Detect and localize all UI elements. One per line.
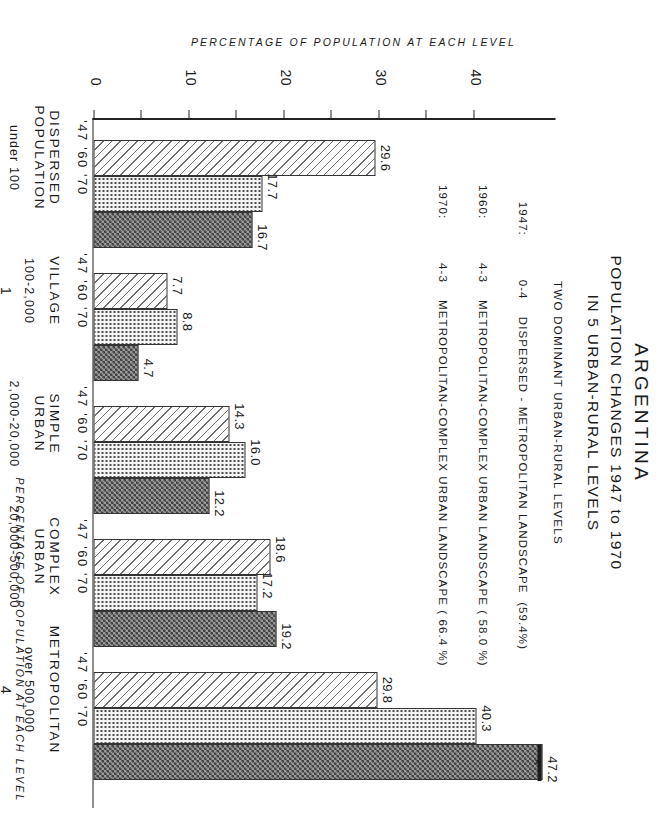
bar-simple-urban-1947[interactable]: 14.3 [94, 406, 230, 442]
bar-simple-urban-1960[interactable]: 16.0 [94, 442, 246, 478]
bar-dispersed-1960[interactable]: 17.7 [94, 176, 262, 212]
y-tick-minor-15 [235, 110, 236, 119]
y-tick-0 [93, 110, 94, 119]
x-label-dispersed: '47 '60 '70 DISPERSED POPULATION under 1… [0, 83, 89, 233]
x-label-years: '47 '60 '70 [74, 349, 89, 499]
asterisk-icon: * [525, 759, 542, 766]
bar-village-1947[interactable]: 7.7 [94, 273, 167, 309]
chart-canvas: ARGENTINA POPULATION CHANGES 1947 to 197… [0, 0, 659, 826]
x-label-name: SIMPLE [46, 349, 61, 499]
x-label-name2: POPULATION [31, 83, 46, 233]
x-label-years: '47 '60 '70 [74, 216, 89, 366]
x-label-index: 4 [0, 615, 13, 765]
x-label-village: '47 '60 '70 VILLAGE 100-2,000 1 [0, 216, 89, 366]
bar-value-label: 12.2 [211, 490, 226, 517]
y-tick-label-0: 0 [87, 42, 103, 86]
x-label-years: '47 '60 '70 [74, 615, 89, 765]
bar-value-label: 17.2 [259, 572, 274, 599]
bar-value-label: 16.7 [254, 224, 269, 251]
bar-metropolitan-1970[interactable]: 47.2 * [94, 744, 542, 780]
x-label-range: over 500,000 [21, 615, 35, 765]
x-label-name2: URBAN [31, 349, 46, 499]
bar-dispersed-1947[interactable]: 29.6 [94, 140, 375, 176]
x-label-name: DISPERSED [46, 83, 61, 233]
y-tick-label-40: 40 [467, 42, 483, 86]
y-tick-10 [188, 110, 189, 119]
y-tick-minor-5 [140, 110, 141, 119]
y-tick-30 [378, 110, 379, 119]
bar-value-label: 16.0 [248, 439, 263, 466]
bar-value-label: 19.2 [278, 623, 293, 650]
bar-metropolitan-1960[interactable]: 40.3 [94, 708, 477, 744]
bar-complex-urban-1947[interactable]: 18.6 [94, 539, 271, 575]
y-tick-minor-35 [425, 110, 426, 119]
bar-value-label: 29.8 [379, 677, 394, 704]
bar-complex-urban-1970[interactable]: 19.2 [94, 611, 276, 647]
bar-value-label: 40.3 [478, 705, 493, 732]
bar-value-label: 14.3 [231, 403, 246, 430]
x-label-range: 2,000-20,000 [6, 349, 20, 499]
bar-value-label: 8.8 [179, 312, 194, 331]
x-label-name: COMPLEX [46, 482, 61, 632]
bar-value-label: 7.7 [169, 276, 184, 295]
x-label-range: 100-2,000 [21, 216, 35, 366]
x-label-name: METROPOLITAN [46, 615, 61, 765]
plot-area: PERCENTAGE OF POPULATION AT EACH LEVEL P… [0, 0, 659, 826]
bar-village-1960[interactable]: 8.8 [94, 309, 178, 345]
y-axis-line [92, 118, 555, 120]
y-tick-label-30: 30 [372, 42, 388, 86]
x-label-range: 20,000-500,000 [6, 482, 20, 632]
y-tick-label-20: 20 [277, 42, 293, 86]
x-label-index: 1 [0, 216, 13, 366]
bar-complex-urban-1960[interactable]: 17.2 [94, 575, 257, 611]
x-label-complex-urban: '47 '60 '70 COMPLEX URBAN 20,000-500,000… [0, 482, 89, 632]
x-label-name2: URBAN [31, 482, 46, 632]
bar-value-label: 18.6 [272, 536, 287, 563]
bar-village-1970[interactable]: 4.7 [94, 345, 139, 381]
bar-value-label: 4.7 [140, 359, 155, 378]
x-label-range: under 100 [6, 83, 20, 233]
bar-value-label: 47.2 [544, 756, 559, 783]
x-label-years: '47 '60 '70 [74, 482, 89, 632]
bar-simple-urban-1970[interactable]: 12.2 [94, 478, 210, 514]
bar-metropolitan-1947[interactable]: 29.8 [94, 672, 377, 708]
x-label-simple-urban: '47 '60 '70 SIMPLE URBAN 2,000-20,000 2 [0, 349, 89, 499]
x-label-name: VILLAGE [46, 216, 61, 366]
y-tick-20 [283, 110, 284, 119]
bar-value-label: 29.6 [377, 145, 392, 172]
x-label-years: '47 '60 '70 [74, 83, 89, 233]
bar-value-label: 17.7 [264, 173, 279, 200]
y-tick-label-10: 10 [182, 42, 198, 86]
bar-dispersed-1970[interactable]: 16.7 [94, 212, 253, 248]
x-label-metropolitan: '47 '60 '70 METROPOLITAN over 500,000 4 [0, 615, 89, 765]
y-axis-title: PERCENTAGE OF POPULATION AT EACH LEVEL [143, 36, 563, 48]
y-tick-40 [473, 110, 474, 119]
y-tick-minor-25 [330, 110, 331, 119]
